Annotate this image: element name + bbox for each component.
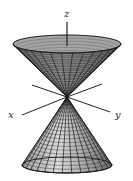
double-cone-diagram: z x y (0, 0, 133, 181)
z-axis-label: z (63, 8, 70, 19)
y-axis-label: y (114, 109, 121, 120)
x-axis-label: x (8, 109, 14, 120)
